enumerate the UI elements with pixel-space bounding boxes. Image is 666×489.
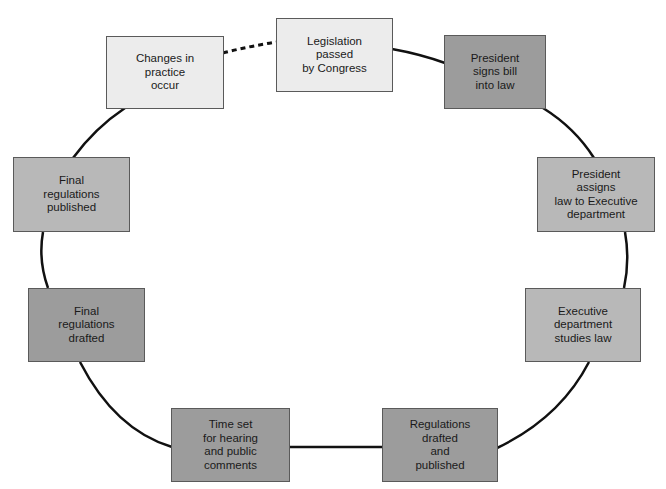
node-label: Changes in practice occur: [136, 52, 194, 93]
node-label: Final regulations drafted: [58, 305, 114, 346]
node-final-regulations-drafted: Final regulations drafted: [28, 288, 145, 362]
node-executive-department-studies: Executive department studies law: [525, 288, 641, 362]
connector-studies-to-regulations: [497, 362, 589, 448]
node-label: Regulations drafted and published: [410, 418, 471, 472]
node-label: Final regulations published: [43, 174, 99, 215]
connector-changes-to-legislation: [223, 42, 277, 53]
node-time-set-for-hearing: Time set for hearing and public comments: [171, 408, 290, 482]
node-label: Legislation passed by Congress: [302, 35, 367, 76]
connector-legislation-to-president-signs: [392, 49, 445, 63]
node-label: President assigns law to Executive depar…: [554, 168, 637, 222]
node-label: President signs bill into law: [471, 52, 520, 93]
connector-assigns-to-studies: [624, 232, 627, 288]
node-label: Executive department studies law: [554, 305, 612, 346]
node-president-signs-bill: President signs bill into law: [444, 35, 546, 109]
connector-final-drafted-to-published: [41, 232, 48, 288]
node-final-regulations-published: Final regulations published: [13, 157, 130, 232]
node-label: Time set for hearing and public comments: [203, 418, 258, 472]
connector-signs-to-assigns: [543, 108, 594, 158]
process-cycle-diagram: Legislation passed by Congress President…: [0, 0, 666, 489]
node-regulations-drafted-published: Regulations drafted and published: [382, 408, 498, 482]
connector-timeset-to-final-drafted: [80, 362, 172, 447]
connector-published-to-changes: [73, 108, 125, 158]
node-legislation-passed: Legislation passed by Congress: [276, 18, 393, 92]
node-changes-in-practice: Changes in practice occur: [106, 36, 224, 109]
node-president-assigns-law: President assigns law to Executive depar…: [537, 157, 655, 232]
